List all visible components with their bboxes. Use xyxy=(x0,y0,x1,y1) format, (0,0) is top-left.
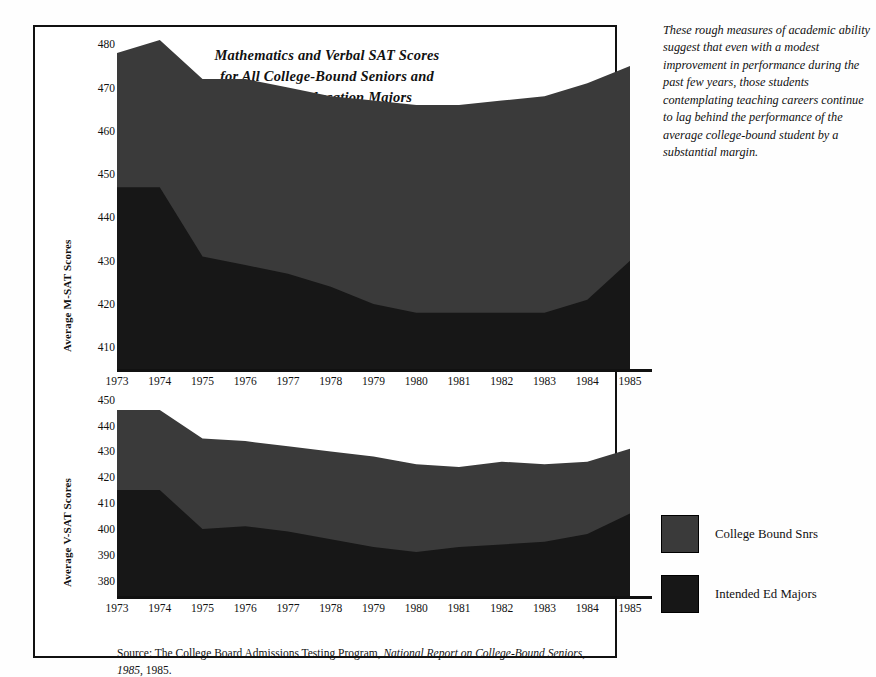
y-tick-label: 450 xyxy=(98,168,115,180)
x-tick-label: 1978 xyxy=(319,602,342,614)
y-tick-label: 440 xyxy=(98,211,115,223)
y-tick-label: 430 xyxy=(98,255,115,267)
legend-label-college-bound: College Bound Snrs xyxy=(715,527,818,542)
x-tick-label: 1984 xyxy=(576,602,599,614)
x-tick-label: 1979 xyxy=(362,602,385,614)
x-axis-ticks-msat: 1973197419751976197719781979198019811982… xyxy=(35,375,619,393)
y-tick-label: 400 xyxy=(98,523,115,535)
y-axis-title-msat: Average M-SAT Scores xyxy=(61,239,73,352)
x-tick-label: 1985 xyxy=(619,602,642,614)
caption-text: These rough measures of academic ability… xyxy=(663,22,871,162)
x-tick-label: 1984 xyxy=(576,375,599,387)
legend-label-intended-ed: Intended Ed Majors xyxy=(715,587,817,602)
y-tick-label: 440 xyxy=(98,420,115,432)
x-tick-label: 1980 xyxy=(405,602,428,614)
source-prefix: Source: The College Board Admissions Tes… xyxy=(117,647,383,659)
x-tick-label: 1973 xyxy=(106,602,129,614)
legend-swatch-intended-ed xyxy=(661,575,699,613)
figure-page: Mathematics and Verbal SAT Scores for Al… xyxy=(0,0,876,677)
x-tick-label: 1982 xyxy=(490,375,513,387)
x-tick-label: 1979 xyxy=(362,375,385,387)
y-tick-label: 410 xyxy=(98,497,115,509)
x-tick-label: 1975 xyxy=(191,602,214,614)
chart-panel-msat: Average M-SAT Scores 4104204304404504604… xyxy=(35,27,619,387)
x-tick-label: 1976 xyxy=(234,375,257,387)
x-tick-label: 1981 xyxy=(448,602,471,614)
y-axis-ticks-msat: 410420430440450460470480 xyxy=(73,27,115,387)
y-tick-label: 410 xyxy=(98,341,115,353)
x-axis-line-vsat xyxy=(117,596,652,599)
legend: College Bound Snrs Intended Ed Majors xyxy=(661,512,871,632)
x-tick-label: 1976 xyxy=(234,602,257,614)
y-tick-label: 390 xyxy=(98,549,115,561)
y-axis-title-vsat: Average V-SAT Scores xyxy=(61,478,73,587)
source-note: Source: The College Board Admissions Tes… xyxy=(117,645,597,677)
legend-item-college-bound: College Bound Snrs xyxy=(661,512,871,556)
y-tick-label: 420 xyxy=(98,298,115,310)
area-plot-msat xyxy=(117,27,652,372)
x-tick-label: 1983 xyxy=(533,602,556,614)
x-tick-label: 1977 xyxy=(277,602,300,614)
y-tick-label: 380 xyxy=(98,575,115,587)
y-tick-label: 420 xyxy=(98,471,115,483)
x-tick-label: 1975 xyxy=(191,375,214,387)
x-tick-label: 1982 xyxy=(490,602,513,614)
x-tick-label: 1978 xyxy=(319,375,342,387)
source-suffix: 1985. xyxy=(143,664,172,676)
x-tick-label: 1974 xyxy=(148,375,171,387)
y-tick-label: 470 xyxy=(98,82,115,94)
y-tick-label: 430 xyxy=(98,445,115,457)
x-tick-label: 1983 xyxy=(533,375,556,387)
x-tick-label: 1977 xyxy=(277,375,300,387)
x-tick-label: 1985 xyxy=(619,375,642,387)
x-axis-line-msat xyxy=(117,369,652,372)
area-plot-vsat xyxy=(117,392,652,599)
y-axis-ticks-vsat: 380390400410420430440450 xyxy=(73,392,115,602)
legend-swatch-college-bound xyxy=(661,515,699,553)
x-tick-label: 1973 xyxy=(106,375,129,387)
legend-item-intended-ed: Intended Ed Majors xyxy=(661,572,871,616)
y-tick-label: 480 xyxy=(98,38,115,50)
x-tick-label: 1981 xyxy=(448,375,471,387)
chart-panel-vsat: Average V-SAT Scores 3803904004104204304… xyxy=(35,392,619,642)
figure-frame: Mathematics and Verbal SAT Scores for Al… xyxy=(33,25,617,658)
y-tick-label: 460 xyxy=(98,125,115,137)
x-axis-ticks-vsat: 1973197419751976197719781979198019811982… xyxy=(35,602,619,620)
y-tick-label: 450 xyxy=(98,394,115,406)
x-tick-label: 1980 xyxy=(405,375,428,387)
x-tick-label: 1974 xyxy=(148,602,171,614)
